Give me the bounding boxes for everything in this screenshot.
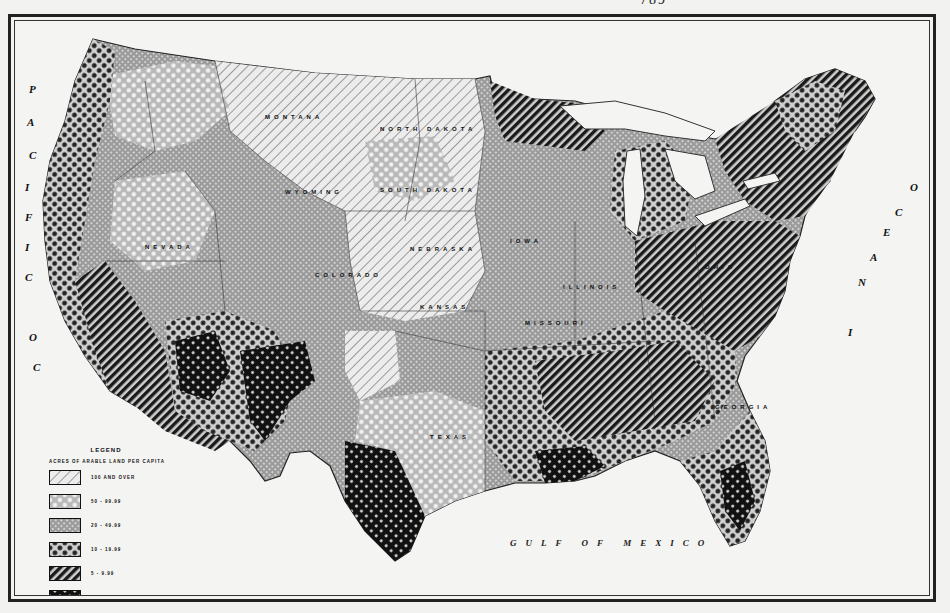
legend-item-10-19: 10 - 19.99 xyxy=(49,538,179,560)
map-legend: LEGEND ACRES OF ARABLE LAND PER CAPITA 1… xyxy=(49,447,179,596)
state-label-illinois: ILLINOIS xyxy=(563,284,620,290)
state-label-nebraska: NEBRASKA xyxy=(410,246,476,252)
legend-item-100-and-over: 100 AND OVER xyxy=(49,466,179,488)
map-area: P A C I F I C O C O C E A N I GULF OF ME… xyxy=(14,20,930,596)
legend-item-5-9: 5 - 9.99 xyxy=(49,562,179,584)
swatch-open-dot-icon xyxy=(49,494,81,509)
state-label-missouri: MISSOURI xyxy=(525,320,587,326)
state-label-south-dakota: SOUTH DAKOTA xyxy=(380,187,476,193)
legend-subtitle: ACRES OF ARABLE LAND PER CAPITA xyxy=(49,459,179,464)
state-label-north-dakota: NORTH DAKOTA xyxy=(380,126,476,132)
state-label-nevada: NEVADA xyxy=(145,244,194,250)
state-label-texas: TEXAS xyxy=(430,434,470,440)
state-label-colorado: COLORADO xyxy=(315,272,382,278)
legend-title: LEGEND xyxy=(33,447,179,453)
state-label-ohio: OHIO xyxy=(705,264,736,270)
gulf-of-mexico-label: GULF OF MEXICO xyxy=(510,538,713,548)
page-header-fragment: 789 xyxy=(0,0,950,14)
map-frame: P A C I F I C O C O C E A N I GULF OF ME… xyxy=(8,14,936,602)
state-label-iowa: IOWA xyxy=(510,238,542,244)
legend-item-50-99: 50 - 99.99 xyxy=(49,490,179,512)
swatch-fine-grid-icon xyxy=(49,518,81,533)
state-label-montana: MONTANA xyxy=(265,114,323,120)
swatch-light-hatch-icon xyxy=(49,470,81,485)
state-label-georgia: GEORGIA xyxy=(715,404,771,410)
state-label-wyoming: WYOMING xyxy=(285,189,343,195)
swatch-heavy-hatch-icon xyxy=(49,566,81,581)
legend-item-20-49: 20 - 49.99 xyxy=(49,514,179,536)
legend-item-0-4: 0 - 4.99 xyxy=(49,586,179,596)
swatch-dark-dot-icon xyxy=(49,542,81,557)
state-label-kansas: KANSAS xyxy=(420,304,469,310)
page-number: 789 xyxy=(640,0,667,8)
swatch-black-dot-icon xyxy=(49,590,81,597)
